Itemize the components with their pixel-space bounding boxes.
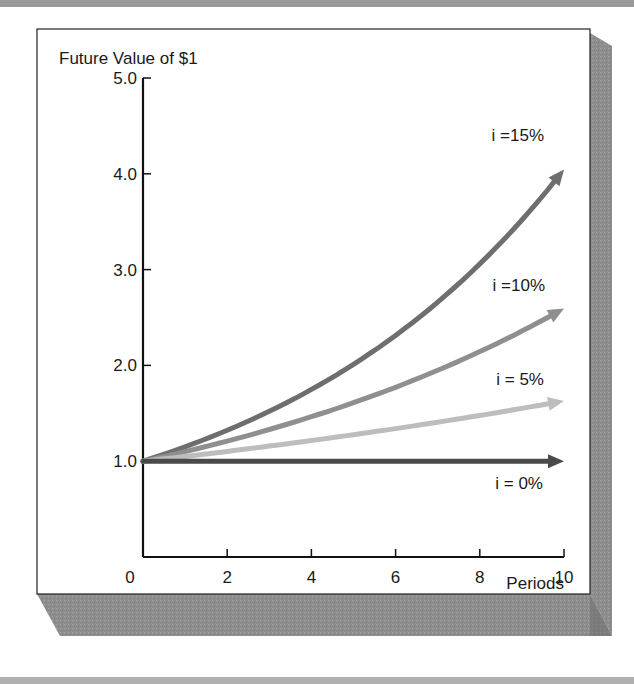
x-tick-label: 4 bbox=[307, 568, 316, 587]
x-tick-label: 2 bbox=[222, 568, 231, 587]
x-tick-label: 8 bbox=[475, 568, 484, 587]
y-tick-label: 1.0 bbox=[113, 452, 137, 471]
y-tick-label: 4.0 bbox=[113, 165, 137, 184]
series-label: i = 0% bbox=[495, 474, 543, 493]
y-tick-label: 2.0 bbox=[113, 356, 137, 375]
x-tick-label: 6 bbox=[391, 568, 400, 587]
y-tick-label: 3.0 bbox=[113, 261, 137, 280]
frame-shadow-bottom bbox=[37, 594, 612, 636]
frame-shadow-right bbox=[590, 33, 612, 636]
chart-frame bbox=[37, 29, 590, 594]
series-label: i = 5% bbox=[496, 370, 544, 389]
x-axis-label: Periods bbox=[506, 574, 564, 593]
series-label: i =10% bbox=[493, 276, 545, 295]
series-label: i =15% bbox=[492, 126, 544, 145]
y-tick-label: 5.0 bbox=[113, 69, 137, 88]
chart-title: Future Value of $1 bbox=[59, 49, 198, 68]
chart-figure: Future Value of $1 1.02.03.04.05.0024681… bbox=[0, 0, 634, 684]
x-tick-label: 0 bbox=[125, 568, 134, 587]
